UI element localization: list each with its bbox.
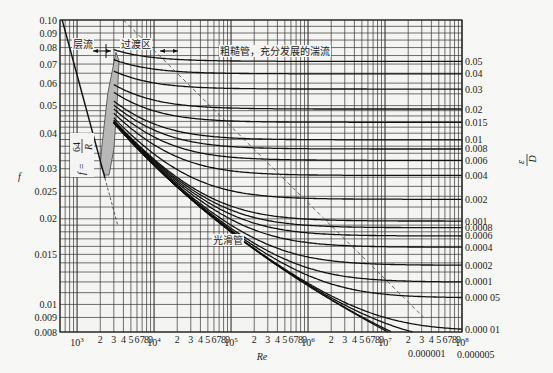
y-axis-label: f — [18, 171, 22, 182]
y-tick-label: 0.03 — [40, 163, 58, 174]
roughness-label: 0.0002 — [465, 260, 493, 271]
svg-text:D: D — [527, 155, 538, 164]
x-minor-tick-label: 4 — [121, 334, 126, 345]
y-tick-label: 0.04 — [40, 128, 58, 139]
roughness-label: 0.02 — [465, 104, 483, 115]
x-axis-label: Re — [256, 351, 268, 362]
y-tick-label: 0.025 — [35, 186, 58, 197]
svg-text:64: 64 — [71, 142, 82, 152]
rough-turbulence-label: 粗糙管，充分发展的湍流 — [220, 45, 330, 57]
x-minor-tick-label: 3 — [111, 334, 116, 345]
y2-axis-label: εD — [515, 154, 538, 166]
x-minor-tick-label: 3 — [342, 334, 347, 345]
y-tick-label: 0.07 — [40, 59, 58, 70]
roughness-label: 0.000001 — [408, 348, 446, 359]
x-minor-tick-label: 3 — [188, 334, 193, 345]
y-tick-label: 0.08 — [40, 42, 58, 53]
svg-text:R: R — [83, 144, 94, 151]
y-tick-label: 0.015 — [35, 249, 58, 260]
x-minor-tick-label: 4 — [429, 334, 434, 345]
roughness-label: 0.008 — [465, 143, 488, 154]
svg-text:f =: f = — [76, 163, 87, 175]
y-tick-label: 0.008 — [35, 327, 58, 338]
x-minor-tick-label: 9 — [225, 334, 230, 345]
roughness-label: 0.03 — [465, 84, 483, 95]
x-minor-tick-label: 5 — [128, 334, 133, 345]
x-minor-tick-label: 4 — [352, 334, 357, 345]
x-minor-tick-label: 2 — [175, 334, 180, 345]
x-minor-tick-label: 3 — [419, 334, 424, 345]
transition-label: 过渡区 — [121, 38, 151, 50]
roughness-label: 0.000 01 — [465, 324, 500, 335]
x-minor-tick-label: 9 — [456, 334, 461, 345]
x-minor-tick-label: 5 — [282, 334, 287, 345]
roughness-label: 0.05 — [465, 56, 483, 67]
y-tick-label: 0.10 — [40, 15, 58, 26]
x-minor-tick-label: 9 — [302, 334, 307, 345]
roughness-label: 0.006 — [465, 155, 488, 166]
roughness-label: 0.000005 — [457, 349, 495, 360]
y-tick-label: 0.09 — [40, 28, 58, 39]
y-tick-label: 0.01 — [40, 299, 58, 310]
x-minor-tick-label: 2 — [406, 334, 411, 345]
laminar-label: 层流 — [73, 38, 93, 50]
roughness-label: 0.0006 — [465, 230, 493, 241]
x-minor-tick-label: 3 — [265, 334, 270, 345]
roughness-label: 0.0001 — [465, 276, 493, 287]
x-minor-tick-label: 2 — [329, 334, 334, 345]
roughness-label: 0.000 05 — [465, 292, 500, 303]
y-tick-label: 0.06 — [40, 78, 58, 89]
x-minor-tick-label: 5 — [436, 334, 441, 345]
roughness-label: 0.004 — [465, 170, 488, 181]
roughness-label: 0.015 — [465, 117, 488, 128]
x-minor-tick-label: 5 — [359, 334, 364, 345]
x-minor-tick-label: 5 — [205, 334, 210, 345]
laminar-formula: f =64R — [70, 133, 94, 177]
x-minor-tick-label: 2 — [252, 334, 257, 345]
svg-text:ε: ε — [515, 160, 526, 164]
roughness-label: 0.0004 — [465, 242, 493, 253]
x-tick-label: 103 — [70, 336, 84, 348]
y-tick-label: 0.009 — [35, 312, 58, 323]
roughness-label: 0.04 — [465, 68, 483, 79]
x-minor-tick-label: 2 — [98, 334, 103, 345]
x-minor-tick-label: 4 — [275, 334, 280, 345]
y-tick-label: 0.05 — [40, 100, 58, 111]
smooth-pipe-label: 光滑管 — [213, 234, 243, 246]
x-minor-tick-label: 4 — [198, 334, 203, 345]
x-minor-tick-label: 9 — [148, 334, 153, 345]
moody-diagram: 层流过渡区粗糙管，充分发展的湍流光滑管f =64R 0.100.090.080.… — [0, 0, 553, 373]
y-tick-label: 0.02 — [40, 213, 58, 224]
roughness-label: 0.002 — [465, 194, 488, 205]
x-minor-tick-label: 9 — [379, 334, 384, 345]
